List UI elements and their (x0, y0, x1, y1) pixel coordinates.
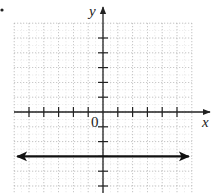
x-axis-label: x (201, 114, 209, 130)
origin-label: 0 (91, 114, 99, 130)
coordinate-plane: y x 0 (0, 0, 224, 193)
y-axis-label: y (87, 3, 96, 19)
bullet-marker (0, 8, 3, 11)
